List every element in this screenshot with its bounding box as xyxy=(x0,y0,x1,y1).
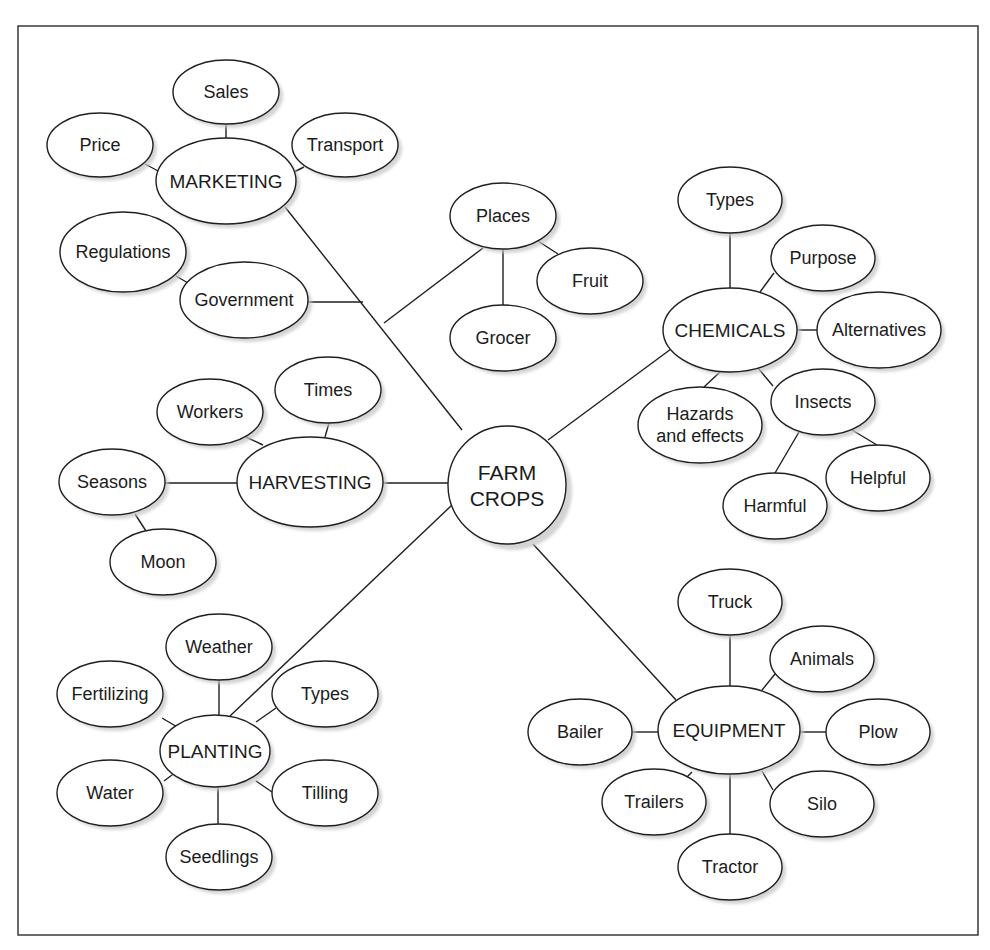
node-transport[interactable]: Transport xyxy=(292,113,402,181)
edge-farm-crops-equipment xyxy=(533,544,676,700)
node-chem-types[interactable]: Types xyxy=(678,167,786,237)
node-label: Types xyxy=(706,190,754,210)
node-label: Moon xyxy=(140,552,185,572)
node-label: Regulations xyxy=(75,242,170,262)
node-label: Bailer xyxy=(557,722,603,742)
node-label: Tractor xyxy=(702,857,758,877)
node-label: Transport xyxy=(307,135,383,155)
edge-planting-tilling xyxy=(256,781,272,792)
node-trailers[interactable]: Trailers xyxy=(602,769,710,839)
node-bailer[interactable]: Bailer xyxy=(528,699,636,769)
node-fruit[interactable]: Fruit xyxy=(537,248,647,318)
edge-chemicals-purpose xyxy=(760,273,774,292)
node-harmful[interactable]: Harmful xyxy=(723,473,831,543)
node-label: Workers xyxy=(177,402,244,422)
node-grocer[interactable]: Grocer xyxy=(450,305,560,375)
node-regulations[interactable]: Regulations xyxy=(60,212,190,296)
node-label: Grocer xyxy=(475,328,530,348)
node-label: Truck xyxy=(708,592,753,612)
node-label: HARVESTING xyxy=(248,472,371,493)
node-label: Insects xyxy=(794,392,851,412)
concept-map-canvas: MARKETINGSalesPriceTransportRegulationsG… xyxy=(0,0,990,950)
node-label: EQUIPMENT xyxy=(673,720,786,741)
node-sales[interactable]: Sales xyxy=(173,60,283,128)
node-label: PLANTING xyxy=(167,741,262,762)
node-label: Times xyxy=(304,380,352,400)
node-label: Seasons xyxy=(77,472,147,492)
node-label: Plow xyxy=(858,722,898,742)
node-label: MARKETING xyxy=(170,171,283,192)
concept-nodes: MARKETINGSalesPriceTransportRegulationsG… xyxy=(47,60,945,904)
node-truck[interactable]: Truck xyxy=(678,569,786,639)
node-label: Price xyxy=(79,135,120,155)
node-label: Helpful xyxy=(850,468,906,488)
node-times[interactable]: Times xyxy=(275,357,385,427)
root-circle xyxy=(448,426,566,544)
edge-insects-harmful xyxy=(775,432,799,473)
node-label: Harmful xyxy=(743,496,806,516)
node-label: Sales xyxy=(203,82,248,102)
node-equipment[interactable]: EQUIPMENT xyxy=(658,686,804,778)
node-government[interactable]: Government xyxy=(180,262,312,342)
node-label: Tilling xyxy=(302,783,348,803)
node-hazards[interactable]: Hazardsand effects xyxy=(638,387,766,467)
node-moon[interactable]: Moon xyxy=(110,529,220,599)
node-seasons[interactable]: Seasons xyxy=(59,449,169,519)
node-label: Hazards xyxy=(666,404,733,424)
node-price[interactable]: Price xyxy=(47,113,157,181)
node-silo[interactable]: Silo xyxy=(770,771,878,841)
node-label: Fruit xyxy=(572,271,608,291)
node-tilling[interactable]: Tilling xyxy=(272,760,382,830)
node-label: CROPS xyxy=(470,487,545,510)
node-seedlings[interactable]: Seedlings xyxy=(166,824,276,894)
edge-planting-plant-types xyxy=(256,708,276,722)
node-label: Animals xyxy=(790,649,854,669)
node-insects[interactable]: Insects xyxy=(771,369,879,439)
node-harvesting[interactable]: HARVESTING xyxy=(237,437,387,531)
node-purpose[interactable]: Purpose xyxy=(771,225,879,295)
node-label: Trailers xyxy=(624,792,683,812)
node-plant-types[interactable]: Types xyxy=(272,661,382,731)
node-label: Government xyxy=(194,290,293,310)
node-places[interactable]: Places xyxy=(450,183,560,253)
edge-places-marketing-branch xyxy=(384,248,483,323)
node-ellipse xyxy=(638,387,762,463)
node-label: Water xyxy=(86,783,133,803)
node-workers[interactable]: Workers xyxy=(157,379,267,449)
node-plow[interactable]: Plow xyxy=(826,699,934,769)
node-tractor[interactable]: Tractor xyxy=(678,834,786,904)
node-water[interactable]: Water xyxy=(57,760,167,830)
node-farm-crops-root[interactable]: FARMCROPS xyxy=(448,426,572,550)
node-fertilizing[interactable]: Fertilizing xyxy=(57,661,167,731)
node-label: and effects xyxy=(656,426,744,446)
node-alternatives[interactable]: Alternatives xyxy=(817,292,945,372)
node-weather[interactable]: Weather xyxy=(166,614,276,684)
node-planting[interactable]: PLANTING xyxy=(160,715,274,791)
node-label: Seedlings xyxy=(179,847,258,867)
node-label: Places xyxy=(476,206,530,226)
edge-equipment-animals xyxy=(762,674,775,690)
node-label: Types xyxy=(301,684,349,704)
node-helpful[interactable]: Helpful xyxy=(826,445,934,515)
node-chemicals[interactable]: CHEMICALS xyxy=(663,288,801,376)
node-label: Alternatives xyxy=(832,320,926,340)
edge-seasons-moon xyxy=(135,514,146,531)
edge-equipment-silo xyxy=(762,771,773,790)
node-label: FARM xyxy=(478,461,536,484)
node-marketing[interactable]: MARKETING xyxy=(156,138,300,228)
node-animals[interactable]: Animals xyxy=(770,626,878,696)
node-label: Silo xyxy=(807,794,837,814)
node-label: Weather xyxy=(185,637,253,657)
node-label: Fertilizing xyxy=(71,684,148,704)
node-label: Purpose xyxy=(789,248,856,268)
node-label: CHEMICALS xyxy=(675,320,786,341)
